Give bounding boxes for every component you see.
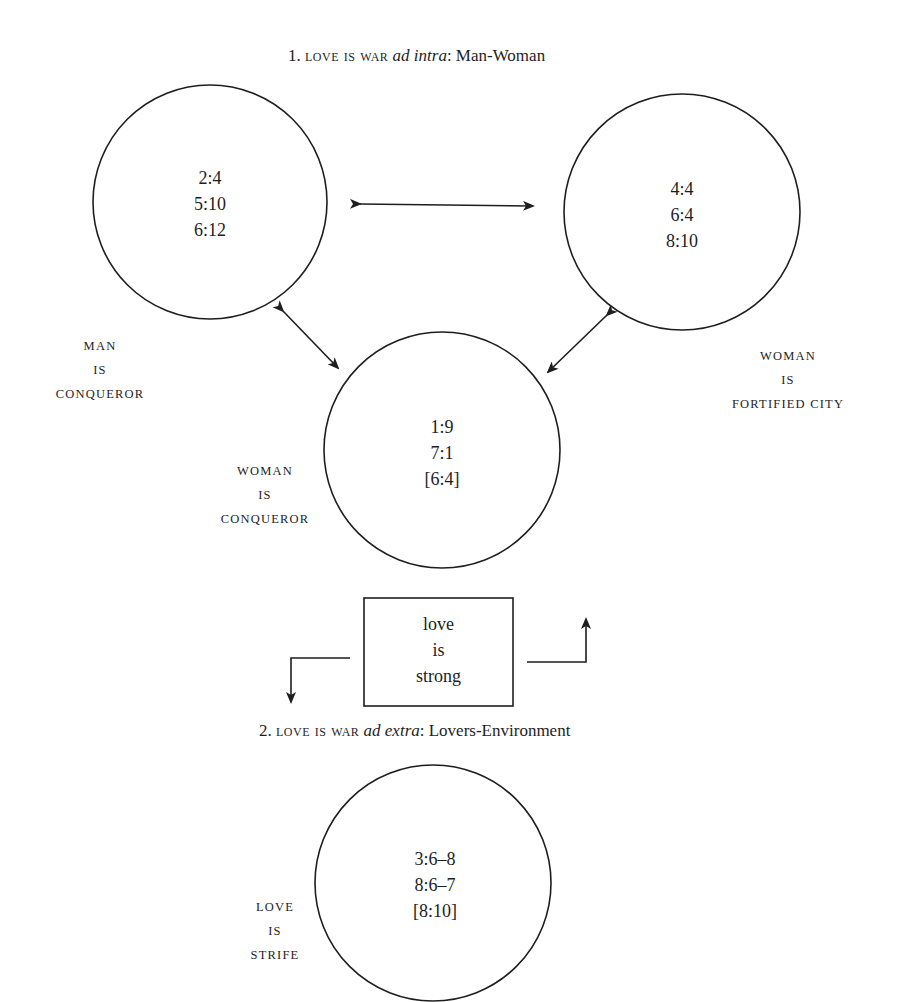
label-line: STRIFE [225,943,325,967]
ref: 8:6–7 [375,872,495,898]
elbow-arrow-up-right [527,619,586,662]
section-1-title: 1. love is war ad intra: Man-Woman [288,46,545,66]
label-line: CONQUEROR [40,382,160,406]
love-is-strong-text: love is strong [364,611,513,689]
box-line: is [364,637,513,663]
label-line: FORTIFIED CITY [718,392,858,416]
label-line: IS [225,919,325,943]
label-line: WOMAN [718,344,858,368]
ref: 6:4 [622,202,742,228]
label-line: IS [718,368,858,392]
elbow-arrow-down-left [291,658,350,702]
ref: 7:1 [382,440,502,466]
ref: 4:4 [622,176,742,202]
ref: [8:10] [375,898,495,924]
environment-circle-refs: 3:6–8 8:6–7 [8:10] [375,846,495,924]
section-2-qualifier: ad extra [364,721,420,740]
ref: 5:10 [150,191,270,217]
woman-city-circle-refs: 4:4 6:4 8:10 [622,176,742,254]
box-line: strong [364,663,513,689]
label-line: IS [40,358,160,382]
ref: 2:4 [150,165,270,191]
ref: 6:12 [150,217,270,243]
label-woman-is-fortified-city: WOMAN IS FORTIFIED CITY [718,344,858,416]
section-2-metaphor: love is war [276,721,359,740]
label-love-is-strife: LOVE IS STRIFE [225,895,325,967]
section-1-qualifier: ad intra [393,46,447,65]
arrow-man-woman-city [360,204,533,206]
arrow-man-woman-conqueror [283,311,338,368]
ref: [6:4] [382,466,502,492]
label-line: MAN [40,334,160,358]
woman-conqueror-circle-refs: 1:9 7:1 [6:4] [382,414,502,492]
section-2-subject: : Lovers-Environment [420,721,571,740]
section-2-number: 2. [259,721,272,740]
arrow-woman-city-woman-conqueror [548,315,607,372]
section-1-metaphor: love is war [305,46,388,65]
section-1-subject: : Man-Woman [447,46,545,65]
label-man-is-conqueror: MAN IS CONQUEROR [40,334,160,406]
label-line: WOMAN [205,459,325,483]
label-line: LOVE [225,895,325,919]
section-1-number: 1. [288,46,301,65]
box-line: love [364,611,513,637]
ref: 3:6–8 [375,846,495,872]
ref: 8:10 [622,228,742,254]
section-2-title: 2. love is war ad extra: Lovers-Environm… [259,721,570,741]
man-circle-refs: 2:4 5:10 6:12 [150,165,270,243]
ref: 1:9 [382,414,502,440]
label-line: IS [205,483,325,507]
label-woman-is-conqueror: WOMAN IS CONQUEROR [205,459,325,531]
label-line: CONQUEROR [205,507,325,531]
